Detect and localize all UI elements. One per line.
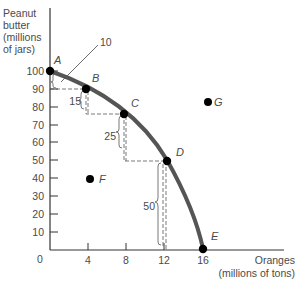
svg-text:B: B [92,72,99,84]
svg-text:60: 60 [32,136,44,148]
svg-text:20: 20 [32,208,44,220]
svg-text:(millions of tons): (millions of tons) [219,267,295,279]
svg-text:50: 50 [32,154,44,166]
svg-text:8: 8 [123,254,129,266]
y-axis-title: Peanut butter (millions of jars) [3,7,42,55]
svg-text:50: 50 [143,200,155,212]
svg-text:70: 70 [32,119,44,131]
annotation-10: 10 [100,36,112,48]
svg-text:16: 16 [197,254,209,266]
point-g [204,98,212,106]
svg-text:4: 4 [85,254,91,266]
point-f [86,175,94,183]
svg-text:(millions: (millions [3,31,42,43]
svg-text:C: C [131,97,139,109]
y-ticks [50,71,58,232]
svg-text:25: 25 [104,130,116,142]
x-axis-title: Oranges (millions of tons) [219,254,295,279]
svg-text:A: A [53,54,61,66]
svg-text:F: F [99,173,107,185]
ppf-chart: 100 90 80 70 60 50 40 30 20 10 0 4 8 12 … [0,0,303,286]
svg-text:90: 90 [32,83,44,95]
svg-text:G: G [214,96,223,108]
x-ticks [88,243,203,250]
step-guides [50,89,166,249]
svg-text:Oranges: Oranges [255,254,295,266]
svg-text:12: 12 [158,254,170,266]
svg-text:E: E [211,230,219,242]
svg-text:100: 100 [26,65,44,77]
x-tick-labels: 4 8 12 16 [85,254,209,266]
svg-text:of jars): of jars) [3,43,35,55]
svg-text:80: 80 [32,101,44,113]
brace-labels: 15 25 50 [69,95,155,212]
svg-text:15: 15 [69,95,81,107]
svg-text:10: 10 [32,226,44,238]
origin-label: 0 [37,253,43,265]
svg-text:Peanut: Peanut [3,7,36,19]
svg-text:butter: butter [3,19,30,31]
svg-text:30: 30 [32,190,44,202]
svg-text:D: D [176,146,184,158]
y-tick-labels: 100 90 80 70 60 50 40 30 20 10 [26,65,44,238]
svg-text:40: 40 [32,172,44,184]
